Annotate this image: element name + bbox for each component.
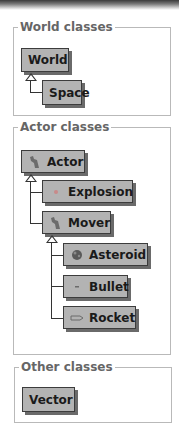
class-label: Mover xyxy=(68,216,110,230)
class-label: Rocket xyxy=(89,311,135,325)
window-top-shadow xyxy=(0,0,179,10)
inheritance-line xyxy=(30,223,42,224)
explosion-icon xyxy=(49,185,63,199)
inheritance-arrow xyxy=(46,235,58,243)
class-label: Actor xyxy=(47,155,83,169)
class-label: Vector xyxy=(29,393,73,407)
inheritance-arrow xyxy=(25,174,37,182)
class-bullet[interactable]: Bullet xyxy=(63,275,128,298)
inheritance-line xyxy=(30,80,31,92)
class-world[interactable]: World xyxy=(21,48,69,72)
inheritance-line xyxy=(51,242,52,318)
inheritance-line xyxy=(51,318,63,319)
class-space[interactable]: Space xyxy=(42,80,82,105)
class-label: Bullet xyxy=(89,280,129,294)
inheritance-arrow xyxy=(25,73,37,81)
class-label: Asteroid xyxy=(89,248,146,262)
inheritance-line xyxy=(30,192,42,193)
footprint-icon xyxy=(28,155,42,169)
inheritance-line xyxy=(51,255,63,256)
footprint-icon xyxy=(49,216,63,230)
group-legend: World classes xyxy=(18,19,115,35)
class-rocket[interactable]: Rocket xyxy=(63,306,136,329)
class-explosion[interactable]: Explosion xyxy=(42,180,133,203)
inheritance-line xyxy=(30,181,31,223)
group-legend: Other classes xyxy=(19,359,115,375)
inheritance-line xyxy=(51,286,63,287)
class-mover[interactable]: Mover xyxy=(42,211,111,234)
class-label: Space xyxy=(49,86,90,100)
asteroid-icon xyxy=(70,248,84,262)
class-label: Explosion xyxy=(68,185,133,199)
class-label: World xyxy=(28,53,68,67)
bullet-icon xyxy=(70,280,84,294)
inheritance-line xyxy=(30,92,42,93)
class-asteroid[interactable]: Asteroid xyxy=(63,243,148,266)
class-vector[interactable]: Vector xyxy=(22,387,75,412)
group-legend: Actor classes xyxy=(18,119,111,135)
rocket-icon xyxy=(70,311,84,325)
class-actor[interactable]: Actor xyxy=(21,150,85,173)
